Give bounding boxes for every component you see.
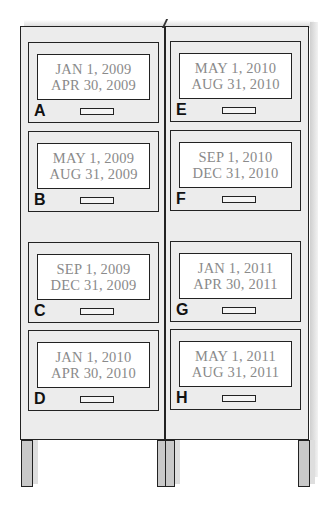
drawer-handle[interactable]: [222, 307, 256, 314]
drawer-handle[interactable]: [222, 395, 256, 402]
drawer-d[interactable]: JAN 1, 2010 APR 30, 2010 D: [28, 330, 159, 411]
drawer-letter: C: [34, 302, 46, 320]
end-date: APR 30, 2009: [51, 77, 136, 93]
start-date: JAN 1, 2009: [56, 61, 132, 77]
end-date: APR 30, 2011: [193, 276, 277, 292]
date-label: JAN 1, 2011 APR 30, 2011: [179, 253, 292, 299]
date-label: MAY 1, 2010 AUG 31, 2010: [179, 53, 292, 99]
drawer-a[interactable]: JAN 1, 2009 APR 30, 2009 A: [28, 42, 159, 123]
column-divider: [164, 26, 166, 440]
leg-shadow: [310, 440, 315, 484]
drawer-f[interactable]: SEP 1, 2010 DEC 31, 2010 F: [170, 130, 301, 211]
drawer-letter: E: [176, 101, 187, 119]
leg-center-right: [165, 440, 175, 487]
drawer-handle[interactable]: [222, 196, 256, 203]
end-date: AUG 31, 2011: [192, 364, 280, 380]
drawer-h[interactable]: MAY 1, 2011 AUG 31, 2011 H: [170, 329, 301, 410]
end-date: AUG 31, 2009: [49, 166, 137, 182]
drawer-handle[interactable]: [80, 197, 114, 204]
date-label: MAY 1, 2011 AUG 31, 2011: [179, 341, 292, 387]
drawer-letter: F: [176, 190, 186, 208]
date-label: JAN 1, 2010 APR 30, 2010: [37, 342, 150, 388]
drawer-e[interactable]: MAY 1, 2010 AUG 31, 2010 E: [170, 41, 301, 122]
end-date: AUG 31, 2010: [191, 76, 279, 92]
drawer-handle[interactable]: [80, 396, 114, 403]
leg-shadow: [33, 440, 38, 484]
start-date: MAY 1, 2009: [53, 150, 134, 166]
leg-right: [298, 440, 310, 487]
end-date: APR 30, 2010: [51, 365, 136, 381]
start-date: SEP 1, 2010: [199, 149, 273, 165]
drawer-handle[interactable]: [222, 107, 256, 114]
end-date: DEC 31, 2009: [51, 277, 137, 293]
start-date: SEP 1, 2009: [57, 261, 131, 277]
date-label: MAY 1, 2009 AUG 31, 2009: [37, 143, 150, 189]
drawer-b[interactable]: MAY 1, 2009 AUG 31, 2009 B: [28, 131, 159, 212]
drawer-letter: G: [176, 301, 188, 319]
start-date: JAN 1, 2011: [198, 260, 273, 276]
drawer-letter: A: [34, 102, 46, 120]
date-label: SEP 1, 2009 DEC 31, 2009: [37, 254, 150, 300]
drawer-g[interactable]: JAN 1, 2011 APR 30, 2011 G: [170, 241, 301, 322]
drawer-handle[interactable]: [80, 308, 114, 315]
end-date: DEC 31, 2010: [193, 165, 279, 181]
start-date: MAY 1, 2010: [195, 60, 276, 76]
drawer-handle[interactable]: [80, 108, 114, 115]
drawer-letter: D: [34, 390, 46, 408]
date-label: SEP 1, 2010 DEC 31, 2010: [179, 142, 292, 188]
drawer-letter: H: [176, 389, 188, 407]
cabinet-side-shadow: [310, 22, 318, 477]
start-date: MAY 1, 2011: [195, 348, 276, 364]
drawer-letter: B: [34, 191, 46, 209]
start-date: JAN 1, 2010: [56, 349, 132, 365]
drawer-c[interactable]: SEP 1, 2009 DEC 31, 2009 C: [28, 242, 159, 323]
leg-left: [21, 440, 33, 487]
leg-shadow: [175, 440, 180, 484]
date-label: JAN 1, 2009 APR 30, 2009: [37, 54, 150, 100]
